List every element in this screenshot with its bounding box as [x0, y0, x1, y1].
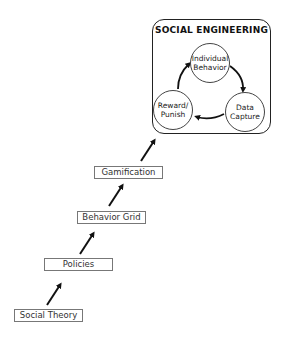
node-data-capture: DataCapture: [225, 92, 265, 132]
node-individual-behavior: IndividualBehavior: [190, 43, 230, 83]
arrow-behavior-grid-to-gamification: [109, 186, 122, 206]
arrow-policies-to-behavior-grid: [80, 234, 93, 254]
arrow-social-theory-to-policies: [47, 285, 60, 305]
node-label-line2: Punish: [161, 110, 186, 119]
arrow-gamification-to-social-engineering: [141, 141, 154, 161]
node-label-line2: Capture: [230, 112, 260, 121]
node-label-line1: Reward/: [158, 101, 188, 110]
social-engineering-title: SOCIAL ENGINEERING: [153, 25, 270, 35]
node-reward-punish: Reward/Punish: [153, 90, 193, 130]
step-behavior-grid: Behavior Grid: [77, 211, 146, 224]
step-social-theory: Social Theory: [14, 309, 83, 322]
step-gamification: Gamification: [94, 166, 163, 179]
node-label-line2: Behavior: [193, 63, 226, 72]
node-label-line1: Individual: [192, 54, 229, 63]
node-label-line1: Data: [236, 103, 254, 112]
step-policies: Policies: [44, 258, 113, 271]
